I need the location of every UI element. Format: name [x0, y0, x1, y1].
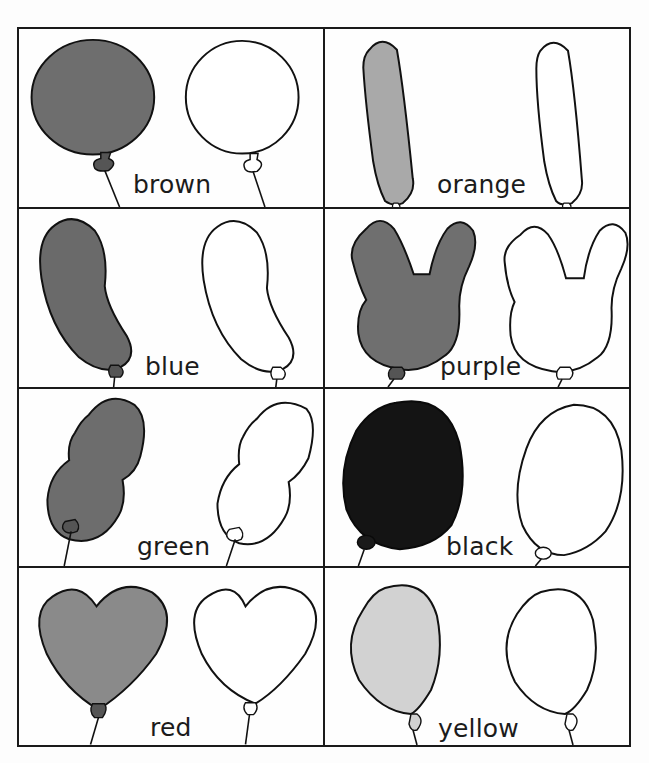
card-orange: orange [325, 29, 631, 209]
colored-balloon-icon [343, 401, 463, 566]
outline-balloon-icon [202, 221, 293, 387]
outline-balloon-icon [505, 224, 628, 387]
color-word-label: green [137, 534, 210, 559]
colored-balloon-icon [40, 219, 131, 387]
color-word-label: red [150, 715, 192, 740]
color-word-label: brown [133, 172, 211, 197]
outline-balloon-icon [217, 403, 312, 566]
color-word-label: blue [145, 354, 200, 379]
card-red: red [19, 568, 325, 745]
outline-balloon-icon [536, 43, 582, 207]
card-brown: brown [19, 29, 325, 209]
colored-balloon-icon [351, 585, 440, 745]
color-word-label: orange [437, 172, 526, 197]
color-word-label: black [446, 534, 513, 559]
color-word-label: yellow [438, 716, 519, 741]
outline-balloon-icon [506, 589, 595, 745]
card-green: green [19, 389, 325, 568]
card-yellow: yellow [325, 568, 631, 745]
colored-balloon-icon [47, 399, 144, 566]
card-black: black [325, 389, 631, 568]
card-purple: purple [325, 209, 631, 389]
card-blue: blue [19, 209, 325, 389]
outline-balloon-icon [517, 405, 622, 566]
outline-balloon-icon [194, 587, 316, 745]
balloon-worksheet: brown orange [17, 27, 631, 747]
colored-balloon-icon [39, 587, 167, 745]
color-word-label: purple [440, 354, 521, 379]
colored-balloon-icon [363, 42, 413, 207]
